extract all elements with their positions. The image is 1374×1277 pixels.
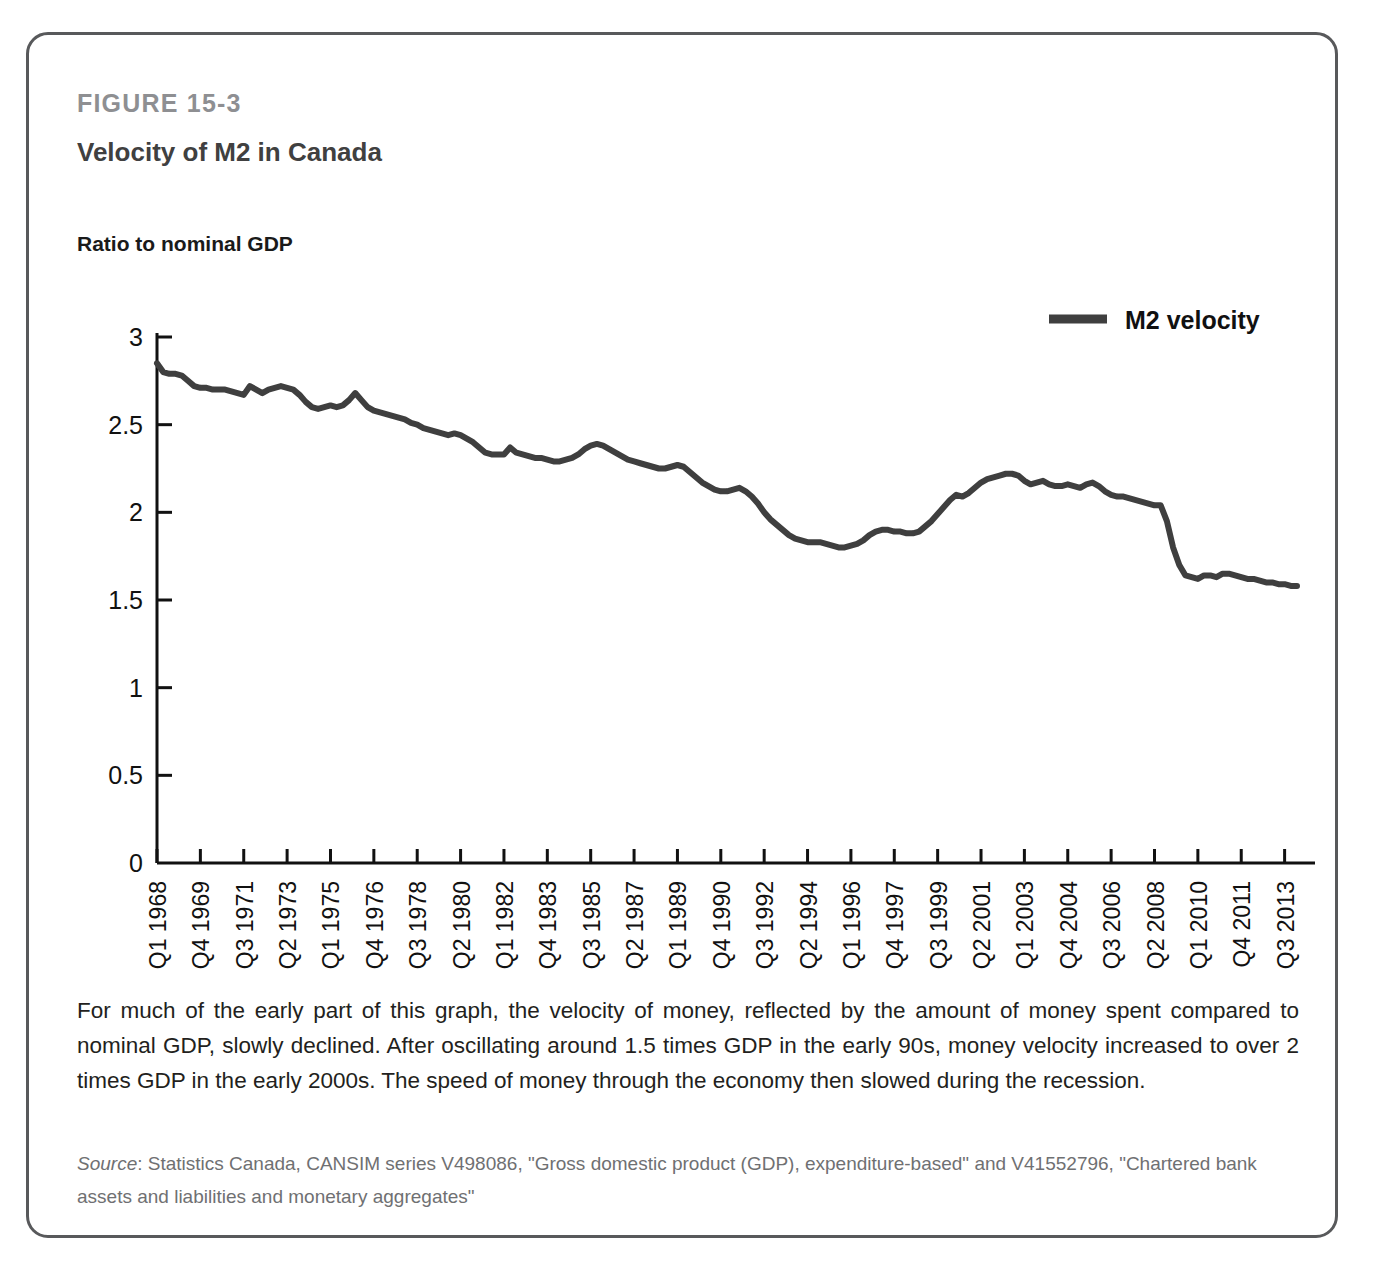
series-lines bbox=[157, 363, 1297, 586]
x-tick-label: Q4 1969 bbox=[188, 881, 214, 969]
x-tick-label: Q1 2010 bbox=[1186, 881, 1212, 969]
x-tick-label: Q1 1975 bbox=[318, 881, 344, 969]
chart-area: 00.511.522.53 Q1 1968Q4 1969Q3 1971Q2 19… bbox=[49, 275, 1319, 985]
x-tick-label: Q4 2004 bbox=[1056, 881, 1082, 969]
y-tick-label: 1.5 bbox=[108, 586, 143, 614]
y-tick-label: 3 bbox=[129, 323, 143, 351]
figure-border-box: FIGURE 15-3 Velocity of M2 in Canada Rat… bbox=[26, 32, 1338, 1238]
x-tick-label: Q1 1996 bbox=[839, 881, 865, 969]
source-label: Source bbox=[77, 1153, 137, 1174]
figure-page: FIGURE 15-3 Velocity of M2 in Canada Rat… bbox=[0, 0, 1374, 1277]
x-tick-label: Q1 2003 bbox=[1012, 881, 1038, 969]
y-axis: 00.511.522.53 bbox=[108, 323, 172, 877]
x-tick-label: Q3 1971 bbox=[232, 881, 258, 969]
y-tick-label: 2 bbox=[129, 498, 143, 526]
x-tick-label: Q3 1992 bbox=[752, 881, 778, 969]
x-tick-label: Q4 2011 bbox=[1229, 881, 1255, 968]
x-tick-label: Q1 1968 bbox=[145, 881, 171, 969]
x-tick-label: Q4 1997 bbox=[882, 881, 908, 969]
x-tick-label: Q3 1999 bbox=[926, 881, 952, 969]
figure-caption: For much of the early part of this graph… bbox=[77, 993, 1299, 1098]
y-tick-label: 2.5 bbox=[108, 411, 143, 439]
y-tick-label: 0 bbox=[129, 849, 143, 877]
x-tick-label: Q2 1994 bbox=[796, 881, 822, 969]
x-tick-label: Q4 1990 bbox=[709, 881, 735, 969]
x-tick-label: Q1 1982 bbox=[492, 881, 518, 969]
x-tick-label: Q3 2013 bbox=[1273, 881, 1299, 969]
line-chart: 00.511.522.53 Q1 1968Q4 1969Q3 1971Q2 19… bbox=[49, 275, 1319, 985]
x-axis: Q1 1968Q4 1969Q3 1971Q2 1973Q1 1975Q4 19… bbox=[145, 849, 1315, 969]
figure-source: Source: Statistics Canada, CANSIM series… bbox=[77, 1147, 1299, 1213]
figure-title: Velocity of M2 in Canada bbox=[77, 137, 382, 168]
x-tick-label: Q1 1989 bbox=[665, 881, 691, 969]
y-tick-label: 0.5 bbox=[108, 761, 143, 789]
x-tick-label: Q2 1973 bbox=[275, 881, 301, 969]
source-text: : Statistics Canada, CANSIM series V4980… bbox=[77, 1153, 1257, 1207]
x-tick-label: Q3 1985 bbox=[579, 881, 605, 969]
legend-label: M2 velocity bbox=[1125, 306, 1260, 334]
x-tick-label: Q4 1976 bbox=[362, 881, 388, 969]
x-tick-label: Q3 1978 bbox=[405, 881, 431, 969]
x-tick-label: Q2 2001 bbox=[969, 881, 995, 969]
x-tick-label: Q2 1980 bbox=[449, 881, 475, 969]
x-tick-label: Q2 2008 bbox=[1143, 881, 1169, 969]
figure-number: FIGURE 15-3 bbox=[77, 89, 242, 118]
y-axis-title: Ratio to nominal GDP bbox=[77, 232, 293, 256]
x-tick-label: Q3 2006 bbox=[1099, 881, 1125, 969]
series-line-m2-velocity bbox=[157, 363, 1297, 586]
x-tick-label: Q2 1987 bbox=[622, 881, 648, 969]
x-tick-label: Q4 1983 bbox=[535, 881, 561, 969]
y-tick-label: 1 bbox=[129, 674, 143, 702]
chart-legend: M2 velocity bbox=[1049, 306, 1260, 334]
